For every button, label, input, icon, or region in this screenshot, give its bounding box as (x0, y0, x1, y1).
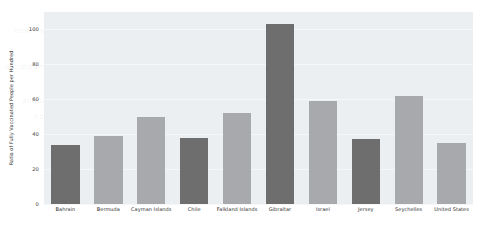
bar-slot (387, 12, 430, 204)
y-tick-label: 100 (29, 26, 39, 32)
bar[interactable] (223, 113, 251, 204)
y-tick-label: 80 (32, 61, 39, 67)
bar[interactable] (352, 139, 380, 204)
x-tick-label: Seychelles (387, 206, 430, 212)
y-axis-title: Ratio of Fully Vaccinated People per Hun… (8, 23, 14, 193)
bar-slot (44, 12, 87, 204)
bar[interactable] (137, 117, 165, 204)
bar[interactable] (309, 101, 337, 204)
bar-slot (173, 12, 216, 204)
bar-slot (301, 12, 344, 204)
plot-area (44, 12, 473, 204)
bar[interactable] (266, 24, 294, 204)
bar-slot (87, 12, 130, 204)
bar-slot (216, 12, 259, 204)
gridline (44, 204, 473, 205)
x-tick-label: Gibraltar (259, 206, 302, 212)
x-tick-label: Bahrain (44, 206, 87, 212)
bar[interactable] (94, 136, 122, 204)
y-axis: Ratio of Fully Vaccinated People per Hun… (0, 12, 44, 204)
x-tick-label: Israel (301, 206, 344, 212)
bar-slot (259, 12, 302, 204)
bar-chart-figure: lorem ipsum dolor sit amet consectetur a… (0, 0, 477, 244)
bar-slot (430, 12, 473, 204)
y-tick-label: 40 (32, 131, 39, 137)
y-tick-label: 60 (32, 96, 39, 102)
x-tick-label: Falkland Islands (216, 206, 259, 212)
x-axis: BahrainBermudaCayman IslandsChileFalklan… (44, 206, 473, 212)
x-tick-label: United States (430, 206, 473, 212)
bar-slot (344, 12, 387, 204)
bar[interactable] (180, 138, 208, 204)
x-tick-label: Chile (173, 206, 216, 212)
bar[interactable] (395, 96, 423, 204)
bar-slot (130, 12, 173, 204)
bar[interactable] (51, 145, 79, 204)
y-tick-label: 0 (36, 201, 39, 207)
x-tick-label: Cayman Islands (130, 206, 173, 212)
y-tick-label: 20 (32, 166, 39, 172)
x-tick-label: Jersey (344, 206, 387, 212)
bar-series (44, 12, 473, 204)
x-tick-label: Bermuda (87, 206, 130, 212)
bar[interactable] (437, 143, 465, 204)
